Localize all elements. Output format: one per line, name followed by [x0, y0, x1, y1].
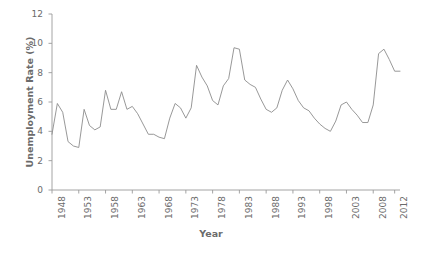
x-tick-label: 2012	[399, 196, 409, 226]
y-tick-label: 2	[19, 156, 43, 166]
y-tick-label: 4	[19, 126, 43, 136]
unemployment-rate-line	[52, 48, 400, 148]
y-tick-label: 12	[19, 9, 43, 19]
y-tick-label: 8	[19, 68, 43, 78]
x-tick-label: 1963	[137, 196, 147, 226]
x-tick-label: 1968	[164, 196, 174, 226]
x-tick-label: 1983	[244, 196, 254, 226]
chart-figure: Unemployment Rate (%) Year 024681012 194…	[0, 0, 422, 254]
x-tick-label: 1953	[83, 196, 93, 226]
x-tick-label: 1993	[297, 196, 307, 226]
x-tick-label: 1998	[324, 196, 334, 226]
y-tick-label: 6	[19, 97, 43, 107]
x-tick-label: 1973	[190, 196, 200, 226]
x-tick-label: 2008	[378, 196, 388, 226]
x-tick-label: 2003	[351, 196, 361, 226]
x-tick-label: 1958	[110, 196, 120, 226]
y-tick-label: 0	[19, 185, 43, 195]
x-tick-label: 1978	[217, 196, 227, 226]
x-tick-label: 1948	[57, 196, 67, 226]
x-tick-label: 1988	[271, 196, 281, 226]
y-tick-label: 10	[19, 38, 43, 48]
